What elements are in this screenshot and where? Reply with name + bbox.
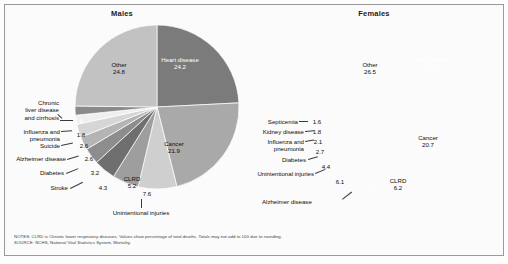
leader-females-alzheimer bbox=[342, 192, 352, 200]
callout-females-unintentional-injuries: Unintentional injuries bbox=[254, 170, 314, 177]
callout-females-alzheimer-disease: Alzheimer disease bbox=[262, 198, 340, 205]
leader-females-influenza bbox=[305, 139, 314, 142]
pie-chart-males bbox=[72, 22, 242, 192]
slice-label-females-heart-disease: Heart disease 21.8 bbox=[400, 56, 464, 70]
leader-males-unintentional bbox=[141, 199, 142, 208]
leader-females-unintentional bbox=[315, 169, 326, 174]
figure-leading-causes-of-death: Males Heart disease 24.2 Cancer 21.9 Oth… bbox=[0, 0, 508, 264]
leader-males-liver bbox=[60, 120, 73, 121]
notes-line-2: SOURCE: NCHS, National Vital Statistics … bbox=[14, 240, 474, 246]
callout-males-stroke: Stroke bbox=[32, 184, 68, 191]
pie-slice-males-heart-disease bbox=[157, 25, 239, 107]
slice-value-females-unintentional-injuries: 4.4 bbox=[318, 163, 334, 170]
callout-males-diabetes: Diabetes bbox=[22, 169, 64, 176]
panel-females: Females Heart disease 21.8 Cancer 20.7 O… bbox=[254, 0, 508, 232]
callout-males-suicide: Suicide bbox=[18, 142, 60, 149]
slice-label-females-clrd: CLRD 6.2 bbox=[381, 177, 415, 191]
callout-males-unintentional-injuries: Unintentional injuries bbox=[86, 209, 196, 216]
pie-males-svg bbox=[72, 22, 242, 192]
leader-females-kidney bbox=[305, 130, 314, 132]
slice-label-females-stroke: Stroke 6.2 bbox=[355, 180, 389, 194]
panel-males: Males Heart disease 24.2 Cancer 21.9 Oth… bbox=[0, 0, 254, 232]
slice-label-females-other: Other 26.5 bbox=[347, 61, 393, 75]
callout-females-influenza-pneumonia: Influenza and pneumonia bbox=[254, 138, 304, 153]
slice-label-females-cancer: Cancer 20.7 bbox=[404, 134, 452, 148]
panel-title-males: Males bbox=[22, 9, 222, 18]
panel-title-females: Females bbox=[274, 9, 474, 18]
pie-slice-males-other bbox=[75, 25, 157, 107]
slice-value-females-diabetes: 2.7 bbox=[312, 148, 328, 155]
callout-males-chronic-liver-disease: Chronic liver disease and cirrhosis bbox=[2, 99, 59, 121]
figure-notes: NOTES: CLRD is Chronic lower respiratory… bbox=[14, 234, 474, 245]
callout-females-kidney-disease: Kidney disease bbox=[254, 128, 304, 135]
slice-value-females-alzheimer-disease: 6.1 bbox=[332, 178, 348, 185]
callout-females-diabetes: Diabetes bbox=[258, 156, 306, 163]
leader-females-diabetes bbox=[308, 156, 318, 160]
leader-males-influenza bbox=[61, 130, 72, 132]
slice-value-females-kidney-disease: 1.8 bbox=[309, 128, 325, 135]
leader-females-septicemia bbox=[299, 121, 308, 122]
callout-females-septicemia: Septicemia bbox=[254, 118, 298, 125]
slice-value-females-septicemia: 1.6 bbox=[309, 118, 325, 125]
callout-males-alzheimer-disease: Alzheimer disease bbox=[0, 155, 66, 162]
callout-males-influenza-pneumonia: Influenza and pneumonia bbox=[6, 128, 60, 143]
